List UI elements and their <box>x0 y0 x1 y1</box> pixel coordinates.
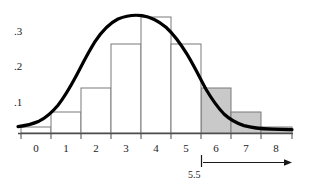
x-tick-label-2: 2 <box>86 143 106 154</box>
bar-6-shaded <box>201 88 231 133</box>
x-tick-label-6: 6 <box>206 143 226 154</box>
y-tick-label-0.2: .2 <box>14 61 22 72</box>
bar-3 <box>111 44 141 133</box>
x-tick-label-0: 0 <box>26 143 46 154</box>
x-tick-label-5: 5 <box>176 143 196 154</box>
x-tick-label-4: 4 <box>146 143 166 154</box>
histogram-normal-approximation-figure: .3 .2 .1 0 1 2 3 4 5 6 7 8 5.5 <box>0 0 310 188</box>
bar-0 <box>21 127 51 133</box>
y-tick-label-0.3: .3 <box>14 26 22 37</box>
y-tick-label-0.1: .1 <box>14 97 22 108</box>
x-tick-label-7: 7 <box>236 143 256 154</box>
marker-label-5point5: 5.5 <box>188 170 201 180</box>
x-tick-label-1: 1 <box>56 143 76 154</box>
x-tick-label-3: 3 <box>116 143 136 154</box>
arrow-head-icon <box>284 159 292 166</box>
x-axis-ticks <box>21 134 292 140</box>
chart-canvas <box>0 0 310 188</box>
bar-4 <box>141 17 171 133</box>
bar-2 <box>81 88 111 133</box>
bar-1 <box>51 112 81 133</box>
x-tick-label-8: 8 <box>266 143 286 154</box>
bar-5 <box>171 44 201 133</box>
continuity-correction-arrow <box>202 155 293 167</box>
